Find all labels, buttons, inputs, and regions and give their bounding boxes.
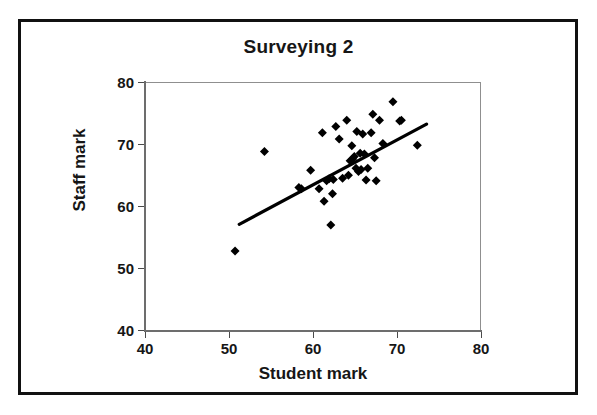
scatter-point [306, 166, 315, 175]
y-tick-label-40: 40 [100, 322, 134, 339]
y-axis-title: Staff mark [70, 80, 90, 260]
scatter-point [368, 110, 377, 119]
x-tick-mark-50 [229, 331, 230, 338]
scatter-point [367, 128, 376, 137]
scatter-point [372, 176, 381, 185]
y-tick-label-70: 70 [100, 136, 134, 153]
scatter-point [318, 128, 327, 137]
x-tick-label-80: 80 [461, 340, 501, 357]
scatter-point [362, 176, 371, 185]
x-tick-label-40: 40 [125, 340, 165, 357]
scatter-point [315, 184, 324, 193]
scatter-point [342, 116, 351, 125]
scatter-point [335, 135, 344, 144]
scatter-point [328, 189, 337, 198]
scatter-point [413, 141, 422, 150]
x-tick-mark-80 [481, 331, 482, 338]
y-axis-line [144, 81, 146, 332]
chart-title: Surveying 2 [0, 36, 597, 58]
scatter-point [326, 220, 335, 229]
scatter-point [363, 164, 372, 173]
y-tick-label-80: 80 [100, 74, 134, 91]
plot-area [145, 82, 481, 331]
y-tick-label-60: 60 [100, 198, 134, 215]
x-tick-mark-40 [145, 331, 146, 338]
scatter-point [231, 247, 240, 256]
x-tick-label-60: 60 [293, 340, 333, 357]
y-tick-label-50: 50 [100, 260, 134, 277]
scatter-point [347, 141, 356, 150]
trend-line-segment [239, 124, 426, 224]
x-axis-line [144, 330, 482, 332]
scatter-point [388, 97, 397, 106]
x-tick-mark-70 [397, 331, 398, 338]
figure-root: Surveying 2 80 70 60 50 40 40 50 60 70 8… [0, 0, 597, 415]
x-axis-title: Student mark [145, 364, 481, 384]
scatter-plot-canvas [146, 83, 482, 332]
x-tick-label-70: 70 [377, 340, 417, 357]
scatter-point [331, 122, 340, 131]
x-tick-label-50: 50 [209, 340, 249, 357]
scatter-point [260, 147, 269, 156]
trend-line [239, 124, 426, 224]
scatter-point [375, 116, 384, 125]
x-tick-mark-60 [313, 331, 314, 338]
scatter-point [320, 197, 329, 206]
